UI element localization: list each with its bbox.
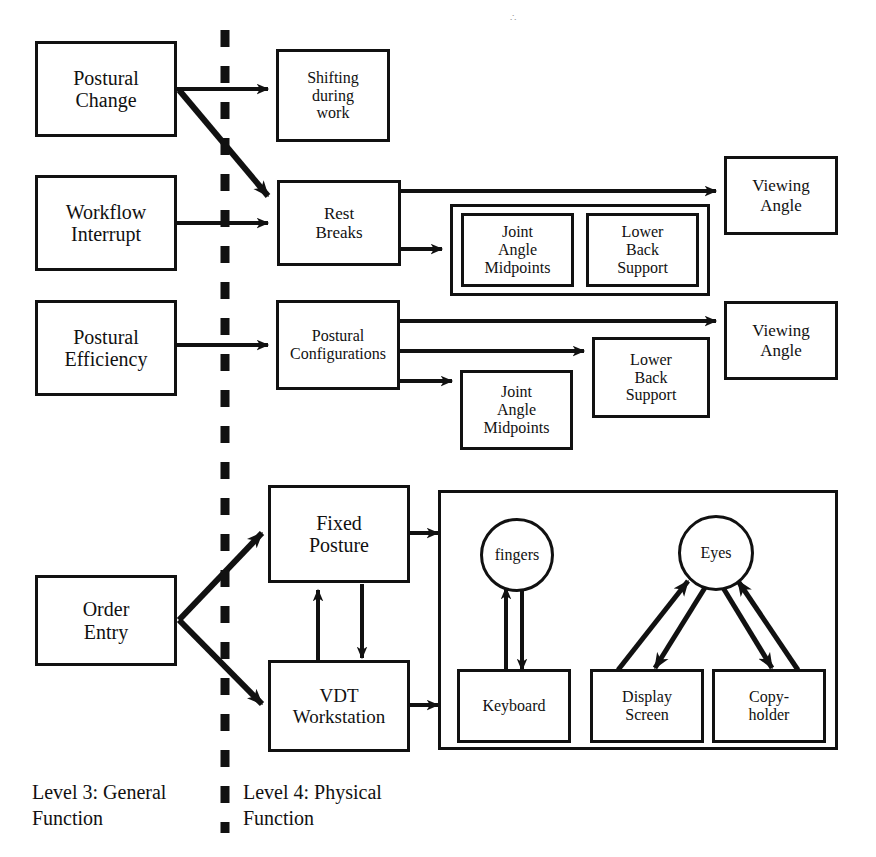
node-joint-angle-midpoints-top-label: Joint Angle Midpoints [485,223,551,277]
node-keyboard[interactable]: Keyboard [457,669,571,743]
diagram-canvas: ∴ Postural Change Workflow Interrupt Pos… [0,0,876,857]
node-shifting-during-work[interactable]: Shifting during work [276,49,390,142]
node-postural-change-label: Postural Change [73,67,139,112]
node-viewing-angle-top-label: Viewing Angle [752,176,810,214]
node-lower-back-support-mid-label: Lower Back Support [626,351,677,405]
node-order-entry-label: Order Entry [83,598,130,643]
node-fixed-posture[interactable]: Fixed Posture [268,485,410,583]
node-lower-back-support-top-label: Lower Back Support [617,223,668,277]
node-copyholder[interactable]: Copy- holder [712,669,826,743]
node-rest-breaks-label: Rest Breaks [315,204,362,242]
node-workflow-interrupt[interactable]: Workflow Interrupt [35,175,177,271]
node-shifting-during-work-label: Shifting during work [307,69,359,123]
node-fixed-posture-label: Fixed Posture [309,512,369,557]
node-viewing-angle-mid[interactable]: Viewing Angle [724,301,838,380]
node-viewing-angle-top[interactable]: Viewing Angle [724,156,838,235]
node-postural-change[interactable]: Postural Change [35,41,177,137]
node-copyholder-label: Copy- holder [749,688,790,724]
node-workflow-interrupt-label: Workflow Interrupt [66,201,147,246]
node-fingers[interactable]: fingers [480,518,554,592]
node-display-screen-label: Display Screen [622,688,672,724]
node-keyboard-label: Keyboard [482,697,545,715]
node-postural-efficiency-label: Postural Efficiency [65,326,148,371]
level-4-caption: Level 4: Physical Function [243,780,473,831]
node-lower-back-support-top[interactable]: Lower Back Support [586,213,699,287]
node-joint-angle-midpoints-top[interactable]: Joint Angle Midpoints [461,213,574,287]
node-postural-efficiency[interactable]: Postural Efficiency [35,300,177,396]
node-rest-breaks[interactable]: Rest Breaks [277,180,401,266]
node-joint-angle-midpoints-mid-label: Joint Angle Midpoints [484,383,550,437]
node-vdt-workstation-label: VDT Workstation [293,685,385,728]
level-3-caption: Level 3: General Function [32,780,232,831]
node-lower-back-support-mid[interactable]: Lower Back Support [592,337,710,418]
node-postural-configurations-label: Postural Configurations [290,327,386,363]
scan-artifact-speck: ∴ [510,12,516,23]
node-viewing-angle-mid-label: Viewing Angle [752,321,810,359]
node-display-screen[interactable]: Display Screen [590,669,704,743]
node-postural-configurations[interactable]: Postural Configurations [276,300,400,390]
node-order-entry[interactable]: Order Entry [35,575,177,666]
node-fingers-label: fingers [495,546,539,564]
node-vdt-workstation[interactable]: VDT Workstation [268,660,410,752]
node-eyes-label: Eyes [700,544,731,562]
node-eyes[interactable]: Eyes [678,515,754,591]
node-joint-angle-midpoints-mid[interactable]: Joint Angle Midpoints [460,370,573,450]
